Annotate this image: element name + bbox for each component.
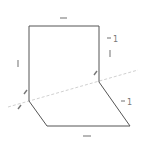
- lower-panel-edges: [29, 82, 130, 126]
- right-angle-mark-icon: [94, 71, 97, 75]
- diagram-canvas: [0, 0, 145, 150]
- left-lower-angle-mark-icon: [18, 105, 21, 109]
- right-bottom-ratio-label: 1: [127, 99, 132, 107]
- upper-panel-edges: [29, 26, 99, 101]
- fold-line: [8, 70, 138, 107]
- right-top-ratio-label: 1: [113, 36, 118, 44]
- left-upper-angle-mark-icon: [24, 90, 27, 94]
